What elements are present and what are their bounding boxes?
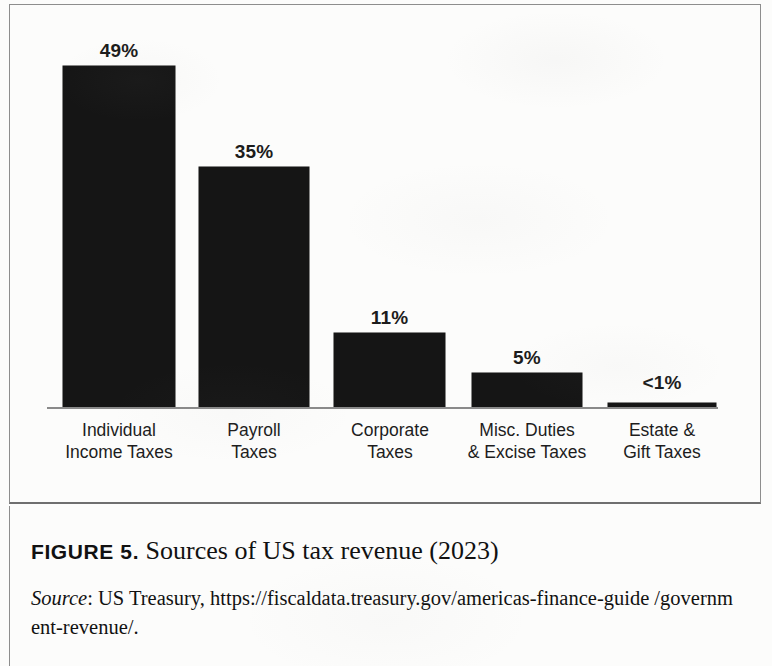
x-axis-label-misc-duties-excise-taxes: Misc. Duties & Excise Taxes xyxy=(450,419,604,463)
x-axis-label-line: Taxes xyxy=(184,441,324,463)
bar-individual-income-taxes xyxy=(63,66,175,408)
x-axis-label-line: & Excise Taxes xyxy=(450,441,604,463)
source-label: Source xyxy=(31,587,87,609)
figure-number: FIGURE 5. xyxy=(31,540,139,563)
source-separator: : xyxy=(87,587,98,609)
bar-misc-duties-excise-taxes xyxy=(472,373,582,408)
figure-page: 49% 35% 11% 5% <1% Individual Income Tax… xyxy=(0,0,772,666)
x-axis-label-corporate-taxes: Corporate Taxes xyxy=(320,419,460,463)
figure-title: Sources of US tax revenue (2023) xyxy=(146,536,499,565)
bar-value-label: <1% xyxy=(608,372,716,394)
bar-value-label: 5% xyxy=(472,347,582,369)
bar-chart: 49% 35% 11% 5% <1% Individual Income Tax… xyxy=(0,0,772,504)
x-axis-label-line: Gift Taxes xyxy=(596,441,728,463)
source-text: US Treasury, https://fiscaldata.treasury… xyxy=(31,587,733,638)
x-axis-label-line: Taxes xyxy=(320,441,460,463)
x-axis-label-line: Estate & xyxy=(596,419,728,441)
x-axis-label-line: Misc. Duties xyxy=(450,419,604,441)
source-note: Source: US Treasury, https://fiscaldata.… xyxy=(31,584,737,642)
bar-corporate-taxes xyxy=(334,333,445,408)
bar-value-label: 35% xyxy=(199,141,309,163)
bar-value-label: 11% xyxy=(334,307,445,329)
x-axis-label-line: Payroll xyxy=(184,419,324,441)
x-axis-label-line: Income Taxes xyxy=(49,441,189,463)
x-axis-label-line: Corporate xyxy=(320,419,460,441)
bar-payroll-taxes xyxy=(199,167,309,408)
x-axis-label-individual-income-taxes: Individual Income Taxes xyxy=(49,419,189,463)
x-axis-label-line: Individual xyxy=(49,419,189,441)
x-axis-line xyxy=(47,407,718,409)
figure-caption: FIGURE 5. Sources of US tax revenue (202… xyxy=(31,536,499,566)
caption-area: FIGURE 5. Sources of US tax revenue (202… xyxy=(9,506,761,666)
bar-value-label: 49% xyxy=(63,40,175,62)
x-axis-label-payroll-taxes: Payroll Taxes xyxy=(184,419,324,463)
x-axis-label-estate-gift-taxes: Estate & Gift Taxes xyxy=(596,419,728,463)
